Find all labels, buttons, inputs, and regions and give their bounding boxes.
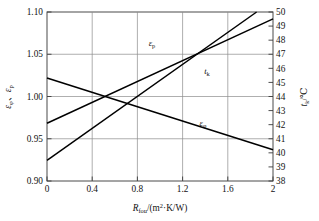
curve-t-k	[47, 19, 273, 123]
figure-container: 0.90 0.95 1.00 1.05 1.10 38 39 40 41 42 …	[0, 0, 319, 221]
y-right-label-unit: /℃	[299, 88, 309, 101]
y-right-tick-label: 38	[276, 176, 286, 186]
x-tick-label: 1.2	[177, 184, 189, 194]
x-axis-label-unit-open: /(m	[147, 203, 161, 214]
curve-label-eps-phi-subscript: φ	[203, 122, 207, 129]
curve-label-t-k: tk	[204, 66, 210, 77]
x-tick-label: 0	[45, 184, 50, 194]
y-left-tick-label: 1.00	[27, 92, 44, 102]
x-axis-label: Rfou/(m2·K/W)	[132, 202, 188, 214]
y-right-tick-label: 46	[276, 64, 286, 74]
y-right-tick-label: 49	[276, 21, 286, 31]
curve-label-eps-p: εp	[149, 38, 156, 49]
y-right-tick-label: 44	[276, 92, 286, 102]
y-right-tick-label: 48	[276, 35, 286, 45]
x-tick-labels: 0 0.4 0.8 1.2 1.6 2	[45, 184, 276, 194]
y-right-tick-label: 39	[276, 162, 286, 172]
y-left-tick-labels: 0.90 0.95 1.00 1.05 1.10	[27, 7, 44, 186]
svg-text:εφ、εp: εφ、εp	[3, 85, 14, 108]
x-tick-label: 0.8	[132, 184, 144, 194]
y-left-ticks	[47, 12, 52, 181]
x-tick-label: 0.4	[86, 184, 98, 194]
y-left-label-separator: 、	[3, 92, 13, 101]
x-tick-label: 1.6	[222, 184, 234, 194]
curve-label-eps-p-subscript: p	[152, 42, 155, 49]
y-right-tick-label: 40	[276, 148, 286, 158]
y-left-tick-label: 0.90	[27, 176, 44, 186]
curve-eps-p	[47, 12, 257, 160]
y-right-tick-label: 50	[276, 7, 286, 17]
y-right-tick-label: 47	[276, 49, 286, 59]
fouling-resistance-chart: 0.90 0.95 1.00 1.05 1.10 38 39 40 41 42 …	[0, 0, 319, 221]
y-left-axis-label: εφ、εp	[3, 85, 14, 108]
y-right-axis-label: tk/℃	[299, 88, 310, 107]
y-right-tick-labels: 38 39 40 41 42 43 44 45 46 47 48 49 50	[276, 7, 286, 186]
y-right-tick-label: 42	[276, 120, 286, 130]
y-right-ticks	[269, 12, 274, 181]
x-axis-label-unit-tail: ·K/W)	[163, 203, 187, 214]
grid-horizontal	[47, 54, 273, 139]
curve-label-t-k-subscript: k	[207, 70, 211, 77]
y-left-tick-label: 1.05	[27, 49, 44, 59]
y-left-tick-label: 1.10	[27, 7, 44, 17]
curve-label-eps-phi: εφ	[199, 118, 206, 129]
y-right-tick-label: 45	[276, 78, 286, 88]
y-right-tick-label: 41	[276, 134, 286, 144]
x-tick-label: 2	[271, 184, 276, 194]
y-left-label-subscript-b: p	[7, 85, 14, 88]
svg-text:tk/℃: tk/℃	[299, 88, 310, 107]
x-ticks	[47, 177, 273, 182]
svg-text:Rfou/(m2·K/W): Rfou/(m2·K/W)	[132, 202, 188, 214]
y-left-tick-label: 0.95	[27, 134, 44, 144]
y-right-tick-label: 43	[276, 106, 286, 116]
